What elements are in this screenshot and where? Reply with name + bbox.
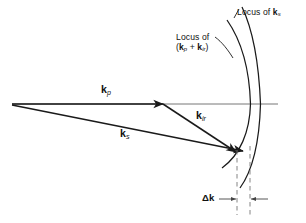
k-infrared-subscript: ir (202, 115, 206, 123)
wave-vector-diagram: Locus of ks Locus of (kp + kir) kp kir k… (0, 0, 306, 223)
locus-of-ks-label: Locus of ks (237, 8, 281, 18)
locus-sum-close-paren: ) (206, 42, 209, 52)
vector-label-k-infrared: kir (196, 110, 206, 123)
locus-sum-line1: Locus of (176, 32, 209, 42)
locus-sum-leader-line (215, 37, 233, 58)
locus-ks-prefix: Locus of (237, 7, 273, 17)
diagram-canvas (0, 0, 306, 223)
vector-label-k-signal: ks (120, 128, 130, 141)
vector-label-k-pump: kp (101, 84, 111, 97)
locus-of-sum-label: Locus of (kp + kir) (176, 33, 209, 53)
delta-k-label: Δk (202, 193, 214, 203)
k-signal-subscript: s (126, 133, 130, 141)
locus-sum-line2: (kp + kir) (176, 43, 209, 53)
locus-ks-subscript: s (278, 11, 281, 17)
locus-sum-operator: + (187, 42, 197, 52)
k-pump-subscript: p (107, 89, 111, 97)
